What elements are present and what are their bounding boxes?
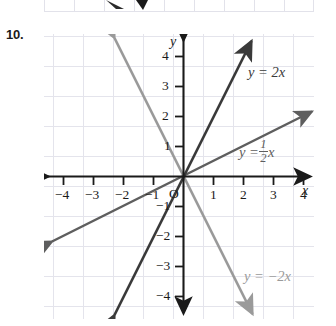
x-tick-label--2: −2 [115,188,129,202]
y-tick-label-1: 1 [164,139,171,153]
y-tick-label-2: 2 [162,109,169,123]
previous-problem-partial-figure [44,0,314,20]
y-tick-label--1: −1 [156,199,170,213]
prev-arrow-down [136,0,148,10]
x-axis-label: x [302,183,308,199]
x-tick-label-3: 3 [270,188,277,202]
x-tick-label-2: 2 [240,188,247,202]
x-tick-label-1: 1 [210,188,217,202]
fraction-one-half: 12 [259,138,267,165]
equation-label-y-2x: y = 2x [248,65,285,80]
equation-label-y-half-x: y =12x [239,138,275,165]
origin-label: O [169,187,179,201]
y-axis-label: y [170,34,176,50]
x-tick-label--4: −4 [55,188,69,202]
equation-label-y-negative-2x: y = −2x [244,269,291,284]
fraction-numerator: 1 [259,138,267,152]
coordinate-plane: −4 −3 −2 −1 1 2 3 4 O 4 3 2 1 −1 −2 −3 −… [44,34,314,319]
y-tick-label--2: −2 [156,229,170,243]
prev-arrow-diagonal [106,0,124,9]
problem-number: 10. [6,27,23,42]
x-tick-label--3: −3 [85,188,99,202]
equation-half-prefix: y = [239,144,259,160]
y-tick-label--3: −3 [156,259,170,273]
previous-figure-svg [44,0,314,20]
y-tick-label-3: 3 [162,79,169,93]
y-tick-label--4: −4 [156,289,170,303]
y-tick-label-4: 4 [162,49,169,63]
fraction-denominator: 2 [259,152,267,165]
worksheet-figure: 10. [0,0,336,326]
equation-half-suffix: x [268,144,274,160]
